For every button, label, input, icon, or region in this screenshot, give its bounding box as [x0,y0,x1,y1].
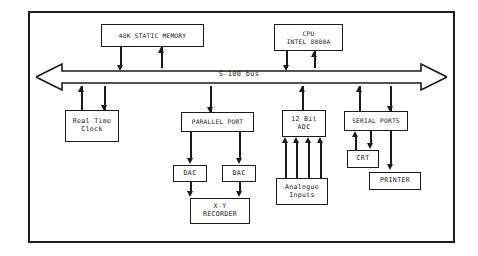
connector-crt-to-serial-up [355,137,357,151]
arrowhead-analogue-channel-1 [282,137,288,143]
dac-right-label: DAC [233,170,246,178]
arrowhead-cpu-to-bus [283,65,289,71]
block-real-time-clock: Real Time Clock [65,110,119,142]
arrowhead-memory-to-bus [117,65,123,71]
connector-analogue-channel-4 [320,143,322,178]
cpu-label-1: CPU [303,30,315,37]
block-serial-ports: SERIAL PORTS [344,111,408,131]
arrowhead-rtc-to-bus [78,86,84,92]
serial-ports-label-1: SERIAL PORTS [352,117,400,124]
printer-label: PRINTER [380,177,410,185]
crt-label: CRT [357,155,370,163]
diagram-canvas: S-100 bus 48K STATIC MEMORY CPU INTEL 80… [0,0,478,256]
parallel-port-label-1: PARALLEL PORT [192,118,244,125]
arrowhead-bus-to-memory [158,47,164,53]
arrowhead-crt-to-serial [352,131,358,137]
arrowhead-bus-to-cpu [311,51,317,57]
arrowhead-parallel-to-dac-right [236,158,242,164]
connector-parallel-to-dac-left [190,132,192,160]
static-memory-label-1: 48K STATIC MEMORY [119,32,187,39]
dac-left-label: DAC [184,170,197,178]
arrowhead-serial-to-crt [367,143,373,149]
block-printer: PRINTER [369,172,421,190]
real-time-clock-label-2: Clock [81,126,102,134]
arrowhead-serial-to-bus [356,86,362,92]
block-analogue-inputs: Analogue Inputs [276,178,328,205]
block-parallel-port: PARALLEL PORT [181,112,254,132]
arrowhead-parallel-to-dac-left [187,158,193,164]
block-static-memory: 48K STATIC MEMORY [101,24,204,47]
arrowhead-dac-right-to-recorder [236,191,242,197]
connector-analogue-channel-1 [285,143,287,178]
connector-parallel-to-dac-right [239,132,241,160]
connector-analogue-channel-3 [308,143,310,178]
arrowhead-analogue-channel-3 [305,137,311,143]
arrowhead-dac-left-to-recorder [187,191,193,197]
block-crt: CRT [347,150,379,168]
block-adc: 12 Bit ADC [282,110,326,137]
xy-recorder-label-2: RECORDER [203,211,237,219]
arrowhead-adc-to-bus [299,86,305,92]
block-cpu: CPU INTEL 8080A [274,24,343,51]
block-xy-recorder: X-Y RECORDER [190,198,250,224]
s100-bus-arrow [36,62,447,92]
connector-analogue-channel-2 [296,143,298,178]
block-dac-left: DAC [173,165,207,182]
cpu-label-2: INTEL 8080A [287,38,331,45]
arrowhead-analogue-channel-4 [317,137,323,143]
arrowhead-serial-to-printer [387,164,393,170]
adc-label-2: ADC [298,124,311,132]
analogue-inputs-label-2: Inputs [289,192,315,200]
block-dac-right: DAC [222,165,256,182]
arrowhead-analogue-channel-2 [293,137,299,143]
